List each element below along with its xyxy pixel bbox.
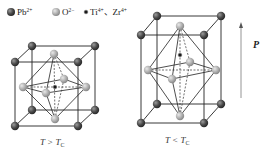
o-ion bbox=[60, 75, 68, 83]
o-ion bbox=[144, 66, 152, 74]
caption-cubic: T > TC bbox=[40, 137, 64, 148]
o-ion bbox=[186, 58, 194, 66]
legend: Pb2+ O2− Ti4+、Zr4+ bbox=[7, 7, 127, 17]
legend-pb-icon bbox=[7, 8, 15, 16]
o-ion bbox=[19, 83, 27, 91]
legend-ti-icon bbox=[84, 10, 88, 14]
legend-pb-label: Pb2+ bbox=[17, 7, 32, 17]
arrow-head-icon bbox=[239, 22, 243, 28]
pb-ion bbox=[217, 100, 225, 108]
o-ion bbox=[82, 83, 90, 91]
o-ion bbox=[168, 75, 176, 83]
pb-ion bbox=[74, 58, 82, 66]
ti-zr-ion bbox=[53, 85, 57, 89]
pb-ion bbox=[91, 42, 99, 50]
legend-o-label: O2− bbox=[62, 7, 74, 17]
o-ion bbox=[176, 112, 184, 120]
pb-ion bbox=[153, 100, 161, 108]
pb-ion bbox=[137, 119, 145, 127]
perovskite-diagram: Pb2+ O2− Ti4+、Zr4+ bbox=[0, 0, 268, 158]
legend-ti-zr-label: Ti4+、Zr4+ bbox=[90, 7, 127, 17]
cubic-structure: T > TC bbox=[11, 42, 99, 148]
pb-ion bbox=[200, 31, 208, 39]
pb-ion bbox=[217, 12, 225, 20]
o-ion bbox=[42, 89, 50, 97]
pb-ion bbox=[153, 12, 161, 20]
pb-ion bbox=[11, 122, 19, 130]
pb-ion bbox=[137, 31, 145, 39]
polarization-arrow: P bbox=[239, 22, 260, 98]
pb-ion bbox=[28, 42, 36, 50]
tetragonal-structure: T < TC bbox=[137, 12, 225, 146]
o-ion bbox=[50, 50, 58, 58]
pb-ion bbox=[28, 106, 36, 114]
polarization-label: P bbox=[253, 39, 260, 50]
legend-o-icon bbox=[52, 8, 60, 16]
ti-zr-ion bbox=[178, 53, 182, 57]
pb-ion bbox=[200, 119, 208, 127]
pb-ion bbox=[91, 106, 99, 114]
o-ion bbox=[176, 22, 184, 30]
o-ion bbox=[51, 115, 59, 123]
caption-tetragonal: T < TC bbox=[165, 135, 189, 146]
pb-ion bbox=[11, 58, 19, 66]
o-ion bbox=[212, 66, 220, 74]
pb-ion bbox=[74, 122, 82, 130]
